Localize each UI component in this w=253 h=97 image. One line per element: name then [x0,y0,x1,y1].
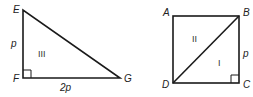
region-label-i: I [218,58,221,68]
triangle-outline [23,10,120,78]
vertex-label-e: E [13,4,20,15]
side-label-ef: p [10,38,17,49]
vertex-label-a: A [162,7,170,18]
geometry-diagram: E F G p 2p III A B C D p II I [0,0,253,97]
side-label-bc: p [242,48,249,59]
region-label-iii: III [38,49,46,59]
vertex-label-g: G [124,73,132,84]
right-angle-marker-c [231,75,239,83]
vertex-label-b: B [243,7,250,18]
right-angle-marker-f [23,70,31,78]
diagonal-bd [173,16,239,83]
vertex-label-d: D [162,79,169,90]
side-label-fg: 2p [59,82,72,93]
triangle-efg: E F G p 2p III [10,4,132,93]
square-abcd: A B C D p II I [162,7,251,90]
vertex-label-f: F [13,73,20,84]
vertex-label-c: C [243,79,251,90]
region-label-ii: II [192,34,197,44]
